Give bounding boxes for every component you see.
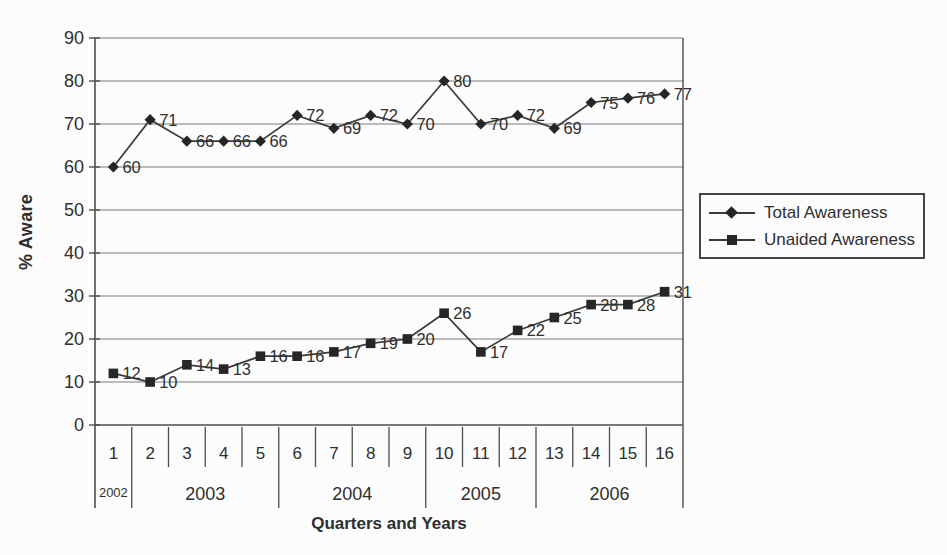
data-point-label: 28 <box>600 296 618 314</box>
data-point-label: 70 <box>416 115 434 133</box>
square-marker <box>660 287 670 297</box>
y-tick-label: 60 <box>64 157 84 177</box>
data-point-label: 10 <box>159 373 177 391</box>
quarter-label: 3 <box>182 444 191 463</box>
data-point-label: 77 <box>674 85 692 103</box>
quarter-label: 6 <box>292 444 301 463</box>
quarter-label: 13 <box>545 444 564 463</box>
square-marker <box>550 313 560 323</box>
data-point-label: 16 <box>269 347 287 365</box>
quarter-label: 12 <box>508 444 527 463</box>
data-point-label: 28 <box>637 296 655 314</box>
year-label: 2004 <box>332 484 372 504</box>
y-tick-label: 20 <box>64 329 84 349</box>
data-point-label: 25 <box>563 309 581 327</box>
data-point-label: 80 <box>453 72 471 90</box>
data-point-label: 75 <box>600 94 618 112</box>
y-tick-label: 50 <box>64 200 84 220</box>
data-point-label: 72 <box>380 106 398 124</box>
data-point-label: 66 <box>269 132 287 150</box>
square-marker <box>219 364 229 374</box>
square-marker <box>439 308 449 318</box>
data-point-label: 72 <box>527 106 545 124</box>
square-marker <box>292 351 302 361</box>
data-point-label: 26 <box>453 304 471 322</box>
square-series-marker-icon <box>709 234 755 246</box>
y-tick-label: 40 <box>64 243 84 263</box>
y-tick-label: 90 <box>64 28 84 48</box>
diamond-marker <box>181 136 192 147</box>
diamond-marker <box>659 88 670 99</box>
data-point-label: 31 <box>674 283 692 301</box>
diamond-marker <box>622 93 633 104</box>
diamond-marker <box>218 136 229 147</box>
data-point-label: 16 <box>306 347 324 365</box>
square-marker <box>182 360 192 370</box>
diamond-marker <box>255 136 266 147</box>
diamond-marker <box>292 110 303 121</box>
data-point-label: 69 <box>563 119 581 137</box>
quarter-label: 9 <box>403 444 412 463</box>
y-tick-label: 10 <box>64 372 84 392</box>
quarter-label: 11 <box>472 444 490 463</box>
square-marker <box>586 300 596 310</box>
quarter-label: 7 <box>329 444 338 463</box>
quarter-label: 14 <box>582 444 601 463</box>
data-point-label: 14 <box>196 356 214 374</box>
data-point-label: 71 <box>159 111 177 129</box>
y-tick-label: 0 <box>74 415 84 435</box>
y-axis-title: % Aware <box>16 194 37 270</box>
y-tick-label: 30 <box>64 286 84 306</box>
data-point-label: 60 <box>122 158 140 176</box>
diamond-series-marker-icon <box>709 207 755 219</box>
y-tick-label: 80 <box>64 71 84 91</box>
square-marker <box>476 347 486 357</box>
quarter-label: 8 <box>366 444 375 463</box>
quarter-label: 16 <box>655 444 674 463</box>
diamond-marker <box>586 97 597 108</box>
legend-entry-total-awareness: Total Awareness <box>709 203 919 223</box>
square-marker <box>109 369 119 379</box>
legend-entry-unaided-awareness: Unaided Awareness <box>709 230 919 250</box>
square-marker <box>403 334 413 344</box>
quarter-label: 10 <box>435 444 454 463</box>
data-point-label: 17 <box>343 343 361 361</box>
diamond-marker <box>512 110 523 121</box>
year-label: 2006 <box>589 484 629 504</box>
quarter-label: 1 <box>109 444 118 463</box>
chart-plot: 0102030405060708090123456789101112131415… <box>0 0 947 555</box>
data-point-label: 72 <box>306 106 324 124</box>
data-point-label: 20 <box>416 330 434 348</box>
quarter-label: 5 <box>256 444 265 463</box>
data-point-label: 22 <box>527 321 545 339</box>
data-point-label: 66 <box>196 132 214 150</box>
data-point-label: 19 <box>380 334 398 352</box>
data-point-label: 12 <box>122 364 140 382</box>
diamond-marker <box>365 110 376 121</box>
quarter-label: 2 <box>145 444 154 463</box>
year-label: 2002 <box>99 485 128 500</box>
data-point-label: 13 <box>233 360 251 378</box>
data-point-label: 66 <box>233 132 251 150</box>
awareness-line-chart-figure: 0102030405060708090123456789101112131415… <box>0 0 947 555</box>
quarter-label: 4 <box>219 444 228 463</box>
data-point-label: 76 <box>637 89 655 107</box>
data-point-label: 17 <box>490 343 508 361</box>
quarter-label: 15 <box>618 444 637 463</box>
data-point-label: 69 <box>343 119 361 137</box>
chart-legend: Total Awareness Unaided Awareness <box>699 193 925 259</box>
legend-label: Total Awareness <box>764 203 887 223</box>
year-label: 2003 <box>185 484 225 504</box>
square-marker <box>513 326 523 336</box>
square-marker <box>366 339 376 349</box>
legend-label: Unaided Awareness <box>764 230 915 250</box>
year-label: 2005 <box>461 484 501 504</box>
square-marker <box>145 377 155 387</box>
x-axis-title: Quarters and Years <box>95 514 683 534</box>
data-point-label: 70 <box>490 115 508 133</box>
square-marker <box>623 300 633 310</box>
square-marker <box>329 347 339 357</box>
y-tick-label: 70 <box>64 114 84 134</box>
square-marker <box>256 351 266 361</box>
